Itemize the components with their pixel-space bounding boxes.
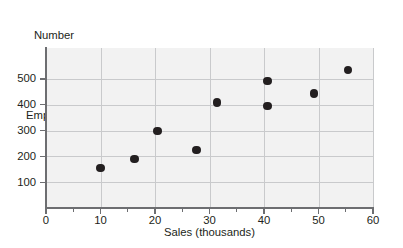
y-axis-title-line-1: Number bbox=[2, 29, 106, 42]
gridline-vertical bbox=[101, 48, 102, 208]
x-axis-tick-minor bbox=[127, 208, 128, 212]
y-axis-line bbox=[45, 47, 47, 209]
gridline-vertical bbox=[210, 48, 211, 208]
data-point bbox=[263, 77, 272, 86]
data-point bbox=[263, 102, 272, 111]
x-axis-title: Sales (thousands) bbox=[46, 226, 373, 239]
y-axis-tick-label: 400 bbox=[2, 99, 36, 110]
x-axis-tick-label: 20 bbox=[137, 215, 173, 226]
y-axis-tick bbox=[40, 104, 46, 105]
x-axis-tick-label: 40 bbox=[246, 215, 282, 226]
y-axis-tick bbox=[40, 130, 46, 131]
gridline-vertical bbox=[373, 48, 374, 208]
x-axis-tick-label: 50 bbox=[301, 215, 337, 226]
y-axis-tick bbox=[40, 156, 46, 157]
x-axis-tick-label: 0 bbox=[28, 215, 64, 226]
data-point bbox=[192, 146, 201, 155]
y-axis-tick-label: 500 bbox=[2, 73, 36, 84]
y-axis-tick-label: 100 bbox=[2, 177, 36, 188]
gridline-vertical bbox=[264, 48, 265, 208]
scatter-plot-figure: Number of Employees 100200300400500 0102… bbox=[0, 0, 403, 248]
x-axis-tick-minor bbox=[291, 208, 292, 212]
x-axis-tick-minor bbox=[345, 208, 346, 212]
x-axis-tick-label: 10 bbox=[83, 215, 119, 226]
y-axis-tick-label: 200 bbox=[2, 151, 36, 162]
x-axis-tick-minor bbox=[73, 208, 74, 212]
x-axis-tick-minor bbox=[182, 208, 183, 212]
gridline-vertical bbox=[319, 48, 320, 208]
y-axis-tick bbox=[40, 182, 46, 183]
data-point bbox=[96, 164, 105, 173]
y-axis-tick bbox=[40, 78, 46, 79]
x-axis-tick-label: 30 bbox=[192, 215, 228, 226]
y-axis-tick-label: 300 bbox=[2, 125, 36, 136]
x-axis-tick-label: 60 bbox=[355, 215, 391, 226]
x-axis-tick-minor bbox=[236, 208, 237, 212]
data-point bbox=[130, 155, 139, 164]
